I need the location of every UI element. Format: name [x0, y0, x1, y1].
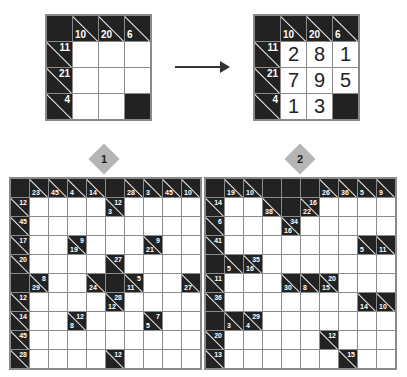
entry-cell[interactable] — [30, 236, 48, 254]
entry-cell[interactable] — [358, 312, 376, 330]
entry-cell[interactable] — [182, 293, 200, 311]
entry-cell[interactable] — [358, 350, 376, 368]
entry-cell[interactable] — [49, 350, 67, 368]
entry-cell[interactable] — [339, 198, 357, 216]
entry-cell[interactable] — [144, 350, 162, 368]
entry-cell[interactable] — [163, 217, 181, 235]
entry-cell[interactable] — [68, 350, 86, 368]
entry-cell[interactable] — [301, 217, 319, 235]
entry-cell[interactable] — [244, 274, 262, 292]
entry-cell[interactable] — [144, 198, 162, 216]
entry-cell[interactable] — [182, 312, 200, 330]
entry-cell[interactable] — [163, 331, 181, 349]
entry-cell[interactable] — [182, 198, 200, 216]
entry-cell[interactable] — [106, 236, 124, 254]
entry-cell[interactable] — [301, 312, 319, 330]
entry-cell[interactable] — [339, 331, 357, 349]
entry-cell[interactable] — [263, 350, 281, 368]
entry-cell[interactable] — [144, 274, 162, 292]
entry-cell[interactable] — [68, 255, 86, 273]
entry-cell[interactable] — [163, 350, 181, 368]
entry-cell[interactable] — [182, 331, 200, 349]
entry-cell[interactable] — [30, 217, 48, 235]
entry-cell[interactable] — [49, 217, 67, 235]
entry-cell[interactable] — [377, 198, 395, 216]
entry-cell[interactable] — [263, 255, 281, 273]
entry-cell[interactable] — [320, 236, 338, 254]
entry-cell[interactable] — [68, 293, 86, 311]
entry-cell[interactable] — [263, 274, 281, 292]
entry-cell[interactable] — [144, 293, 162, 311]
entry-cell[interactable] — [225, 236, 243, 254]
entry-cell[interactable] — [377, 255, 395, 273]
entry-cell[interactable] — [182, 217, 200, 235]
entry-cell[interactable] — [49, 274, 67, 292]
entry-cell[interactable] — [263, 293, 281, 311]
entry-cell[interactable] — [125, 217, 143, 235]
entry-cell[interactable] — [320, 293, 338, 311]
entry-cell[interactable] — [106, 331, 124, 349]
entry-cell[interactable] — [358, 255, 376, 273]
entry-cell[interactable] — [282, 255, 300, 273]
entry-cell[interactable] — [106, 312, 124, 330]
entry-cell[interactable] — [282, 236, 300, 254]
entry-cell[interactable] — [301, 331, 319, 349]
entry-cell[interactable] — [49, 312, 67, 330]
entry-cell[interactable] — [30, 350, 48, 368]
entry-cell[interactable] — [358, 217, 376, 235]
entry-cell[interactable] — [182, 236, 200, 254]
entry-cell[interactable] — [225, 350, 243, 368]
entry-cell[interactable] — [68, 331, 86, 349]
entry-cell[interactable] — [125, 236, 143, 254]
entry-cell[interactable] — [339, 293, 357, 311]
entry-cell[interactable] — [244, 293, 262, 311]
entry-cell[interactable] — [320, 350, 338, 368]
entry-cell[interactable] — [87, 312, 105, 330]
entry-cell[interactable] — [225, 274, 243, 292]
entry-cell[interactable] — [320, 255, 338, 273]
entry-cell[interactable] — [163, 255, 181, 273]
entry-cell[interactable] — [244, 217, 262, 235]
entry-cell[interactable] — [68, 217, 86, 235]
entry-cell[interactable] — [49, 255, 67, 273]
entry-cell[interactable] — [125, 312, 143, 330]
entry-cell[interactable] — [87, 217, 105, 235]
entry-cell[interactable] — [301, 236, 319, 254]
entry-cell[interactable] — [377, 217, 395, 235]
entry-cell[interactable] — [377, 312, 395, 330]
entry-cell[interactable] — [49, 198, 67, 216]
entry-cell[interactable] — [163, 236, 181, 254]
entry-cell[interactable] — [377, 350, 395, 368]
entry-cell[interactable] — [30, 198, 48, 216]
entry-cell[interactable] — [263, 217, 281, 235]
entry-cell[interactable] — [358, 274, 376, 292]
entry-cell[interactable] — [125, 198, 143, 216]
entry-cell[interactable] — [68, 274, 86, 292]
entry-cell[interactable] — [182, 350, 200, 368]
entry-cell[interactable] — [339, 255, 357, 273]
entry-cell[interactable] — [144, 217, 162, 235]
entry-cell[interactable] — [282, 293, 300, 311]
entry-cell[interactable] — [301, 350, 319, 368]
entry-cell[interactable] — [225, 331, 243, 349]
entry-cell[interactable] — [163, 293, 181, 311]
entry-cell[interactable] — [225, 217, 243, 235]
entry-cell[interactable] — [244, 198, 262, 216]
entry-cell[interactable] — [87, 331, 105, 349]
entry-cell[interactable] — [163, 312, 181, 330]
entry-cell[interactable] — [282, 312, 300, 330]
entry-cell[interactable] — [244, 350, 262, 368]
entry-cell[interactable] — [320, 312, 338, 330]
entry-cell[interactable] — [30, 312, 48, 330]
entry-cell[interactable] — [263, 236, 281, 254]
entry-cell[interactable] — [49, 293, 67, 311]
entry-cell[interactable] — [301, 293, 319, 311]
entry-cell[interactable] — [225, 198, 243, 216]
entry-cell[interactable] — [163, 274, 181, 292]
entry-cell[interactable] — [358, 331, 376, 349]
entry-cell[interactable] — [125, 331, 143, 349]
entry-cell[interactable] — [263, 312, 281, 330]
entry-cell[interactable] — [30, 293, 48, 311]
entry-cell[interactable] — [225, 293, 243, 311]
entry-cell[interactable] — [301, 255, 319, 273]
